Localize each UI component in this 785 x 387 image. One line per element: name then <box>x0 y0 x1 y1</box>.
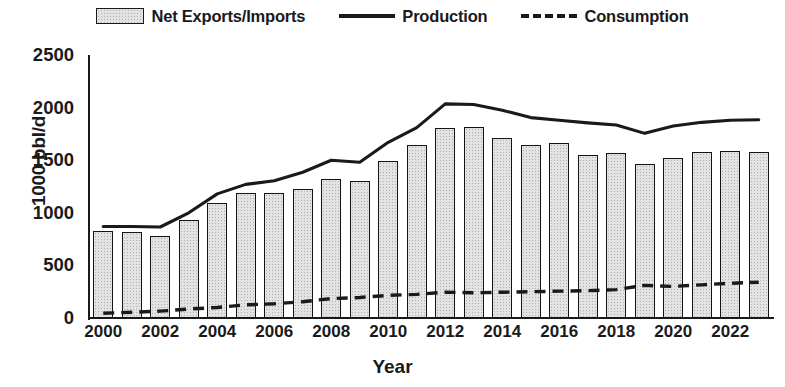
y-tick-1500: 1500 <box>33 149 74 171</box>
bar-swatch-icon <box>96 8 144 24</box>
x-tick-2014: 2014 <box>483 322 521 342</box>
x-tick-2010: 2010 <box>369 322 407 342</box>
chart-container: Net Exports/Imports Production Consumpti… <box>0 0 785 387</box>
x-axis-tick-labels: 2000200220042006200820102012201420162018… <box>0 322 785 352</box>
x-tick-2020: 2020 <box>654 322 692 342</box>
x-tick-2022: 2022 <box>711 322 749 342</box>
y-tick-1000: 1000 <box>33 202 74 224</box>
legend-label-net-exports-imports: Net Exports/Imports <box>151 8 305 25</box>
x-tick-2000: 2000 <box>84 322 122 342</box>
legend-item-net-exports-imports: Net Exports/Imports <box>96 8 305 25</box>
consumption-line <box>103 282 759 313</box>
x-tick-2012: 2012 <box>426 322 464 342</box>
x-tick-2008: 2008 <box>312 322 350 342</box>
solid-line-icon <box>339 14 395 18</box>
x-tick-2004: 2004 <box>198 322 236 342</box>
x-tick-2016: 2016 <box>540 322 578 342</box>
legend-item-production: Production <box>339 8 487 25</box>
plot-area <box>89 55 773 318</box>
x-tick-2002: 2002 <box>141 322 179 342</box>
x-axis-title: Year <box>0 356 785 378</box>
x-tick-2006: 2006 <box>255 322 293 342</box>
production-line <box>103 104 759 227</box>
legend-item-consumption: Consumption <box>521 8 688 25</box>
line-series-group <box>89 55 773 318</box>
y-tick-2000: 2000 <box>33 97 74 119</box>
dashed-line-icon <box>521 14 577 18</box>
legend-label-consumption: Consumption <box>584 8 688 25</box>
legend-label-production: Production <box>402 8 487 25</box>
chart-legend: Net Exports/Imports Production Consumpti… <box>0 0 785 32</box>
y-tick-500: 500 <box>43 254 74 276</box>
x-tick-2018: 2018 <box>597 322 635 342</box>
y-tick-2500: 2500 <box>33 44 74 66</box>
